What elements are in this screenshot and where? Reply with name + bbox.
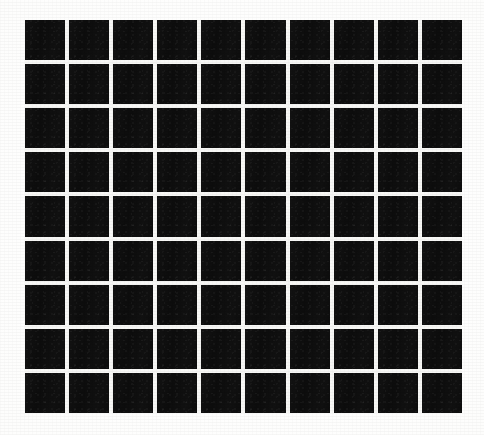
grid-tile bbox=[25, 373, 65, 413]
grid-tile bbox=[201, 152, 241, 192]
grid-tile bbox=[113, 285, 153, 325]
grid-tile bbox=[378, 241, 418, 281]
grid-tile bbox=[25, 196, 65, 236]
grid-tile bbox=[25, 108, 65, 148]
grid-tile bbox=[334, 196, 374, 236]
grid-tile bbox=[201, 329, 241, 369]
grid-tile bbox=[378, 329, 418, 369]
grid-tile bbox=[69, 373, 109, 413]
grid-tile bbox=[113, 64, 153, 104]
grid-tile bbox=[157, 373, 197, 413]
grid-tile bbox=[334, 64, 374, 104]
grid-tile bbox=[422, 329, 462, 369]
grid-tile bbox=[113, 329, 153, 369]
grid-tile bbox=[69, 329, 109, 369]
grid-tile bbox=[157, 241, 197, 281]
grid-tile bbox=[290, 329, 330, 369]
grid-tile bbox=[245, 152, 285, 192]
grid-tile bbox=[25, 64, 65, 104]
grid-tile bbox=[290, 285, 330, 325]
grid-tile bbox=[25, 241, 65, 281]
grid-tile bbox=[422, 373, 462, 413]
grid-tile bbox=[334, 285, 374, 325]
grid-tile bbox=[422, 152, 462, 192]
grid-tile bbox=[69, 196, 109, 236]
grid-tile bbox=[69, 108, 109, 148]
grid-tile bbox=[378, 152, 418, 192]
grid-tile bbox=[378, 285, 418, 325]
grid-tile bbox=[290, 373, 330, 413]
grid-tile bbox=[113, 20, 153, 60]
grid-tile bbox=[245, 285, 285, 325]
grid-tile bbox=[422, 64, 462, 104]
grid-tile bbox=[422, 241, 462, 281]
grid-tile bbox=[422, 108, 462, 148]
grid-tile bbox=[201, 64, 241, 104]
image-canvas bbox=[0, 0, 484, 435]
grid-tile bbox=[25, 285, 65, 325]
grid-tile bbox=[113, 373, 153, 413]
grid-tile bbox=[113, 196, 153, 236]
grid-tile bbox=[378, 196, 418, 236]
grid-tile bbox=[113, 241, 153, 281]
grid-tile bbox=[113, 152, 153, 192]
grid-tile bbox=[25, 329, 65, 369]
grid-tile bbox=[290, 108, 330, 148]
grid-tile bbox=[290, 64, 330, 104]
grid-tile bbox=[245, 373, 285, 413]
grid-tile bbox=[378, 373, 418, 413]
grid-tile bbox=[334, 329, 374, 369]
grid-tile bbox=[378, 64, 418, 104]
grid-tile bbox=[245, 196, 285, 236]
grid-tile bbox=[334, 108, 374, 148]
grid-tile bbox=[69, 64, 109, 104]
grid-tile bbox=[69, 20, 109, 60]
black-tile-grid bbox=[25, 20, 462, 413]
grid-tile bbox=[290, 20, 330, 60]
grid-tile bbox=[290, 152, 330, 192]
grid-tile bbox=[201, 373, 241, 413]
grid-tile bbox=[69, 285, 109, 325]
grid-tile bbox=[201, 196, 241, 236]
grid-tile bbox=[157, 108, 197, 148]
grid-tile bbox=[157, 285, 197, 325]
grid-tile bbox=[201, 285, 241, 325]
grid-tile bbox=[157, 20, 197, 60]
grid-tile bbox=[290, 196, 330, 236]
grid-tile bbox=[69, 152, 109, 192]
grid-tile bbox=[157, 329, 197, 369]
grid-tile bbox=[25, 152, 65, 192]
grid-tile bbox=[245, 241, 285, 281]
grid-tile bbox=[201, 20, 241, 60]
grid-tile bbox=[157, 196, 197, 236]
grid-tile bbox=[201, 108, 241, 148]
grid-tile bbox=[157, 64, 197, 104]
grid-tile bbox=[422, 285, 462, 325]
grid-tile bbox=[422, 20, 462, 60]
grid-tile bbox=[334, 152, 374, 192]
grid-tile bbox=[69, 241, 109, 281]
grid-tile bbox=[290, 241, 330, 281]
grid-tile bbox=[334, 20, 374, 60]
grid-tile bbox=[157, 152, 197, 192]
grid-tile bbox=[378, 20, 418, 60]
grid-tile bbox=[245, 64, 285, 104]
grid-tile bbox=[201, 241, 241, 281]
grid-tile bbox=[25, 20, 65, 60]
grid-tile bbox=[113, 108, 153, 148]
grid-tile bbox=[334, 373, 374, 413]
grid-tile bbox=[245, 20, 285, 60]
grid-tile bbox=[334, 241, 374, 281]
grid-tile bbox=[378, 108, 418, 148]
grid-tile bbox=[245, 108, 285, 148]
grid-tile bbox=[245, 329, 285, 369]
grid-tile bbox=[422, 196, 462, 236]
